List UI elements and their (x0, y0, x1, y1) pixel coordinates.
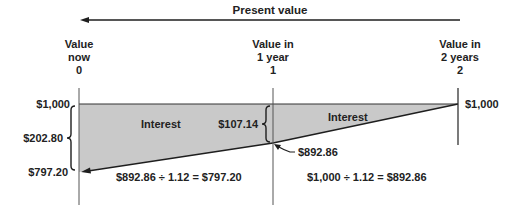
label-future-value-right: $1,000 (465, 98, 499, 111)
diagram-canvas (0, 0, 525, 215)
timeline-label-line1: Value (65, 38, 94, 51)
interest-shaded-region (79, 104, 458, 172)
timeline-label-line2: now (65, 51, 94, 64)
timeline-label-line2: 1 year (252, 51, 294, 64)
label-total-interest: $202.80 (23, 132, 63, 145)
brace-total-interest (67, 106, 75, 170)
timeline-label-line2: 2 years (439, 51, 481, 64)
period-number: 0 (65, 64, 94, 77)
label-future-value-left: $1,000 (36, 98, 70, 111)
chart-title: Present value (233, 4, 308, 17)
present-value-arrow (80, 17, 460, 23)
period-number: 1 (252, 64, 294, 77)
timeline-label-0: Value now 0 (65, 38, 94, 77)
timeline-label-1: Value in 1 year 1 (252, 38, 294, 77)
label-interest-right: Interest (328, 111, 368, 124)
timeline-label-line1: Value in (439, 38, 481, 51)
timeline-label-line1: Value in (252, 38, 294, 51)
formula-period1: $892.86 ÷ 1.12 = $797.20 (116, 171, 242, 184)
formula-period2: $1,000 ÷ 1.12 = $892.86 (307, 171, 427, 184)
label-interest-left: Interest (141, 118, 181, 131)
label-value-year1: $892.86 (298, 146, 338, 159)
label-interest-year2: $107.14 (218, 118, 258, 131)
label-present-value: $797.20 (28, 166, 68, 179)
period-number: 2 (439, 64, 481, 77)
timeline-label-2: Value in 2 years 2 (439, 38, 481, 77)
